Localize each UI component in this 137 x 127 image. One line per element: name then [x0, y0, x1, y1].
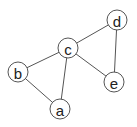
- node-a: a: [50, 99, 70, 119]
- node-c: c: [58, 38, 78, 58]
- nodes-layer: abcde: [8, 10, 127, 119]
- node-label: e: [110, 75, 118, 92]
- node-b: b: [8, 62, 28, 82]
- node-label: a: [56, 102, 65, 119]
- node-e: e: [104, 72, 124, 92]
- edges-layer: [18, 20, 117, 109]
- node-label: c: [64, 41, 72, 58]
- node-label: b: [14, 65, 22, 82]
- graph-diagram: abcde: [0, 0, 137, 127]
- node-label: d: [113, 13, 121, 30]
- node-d: d: [107, 10, 127, 30]
